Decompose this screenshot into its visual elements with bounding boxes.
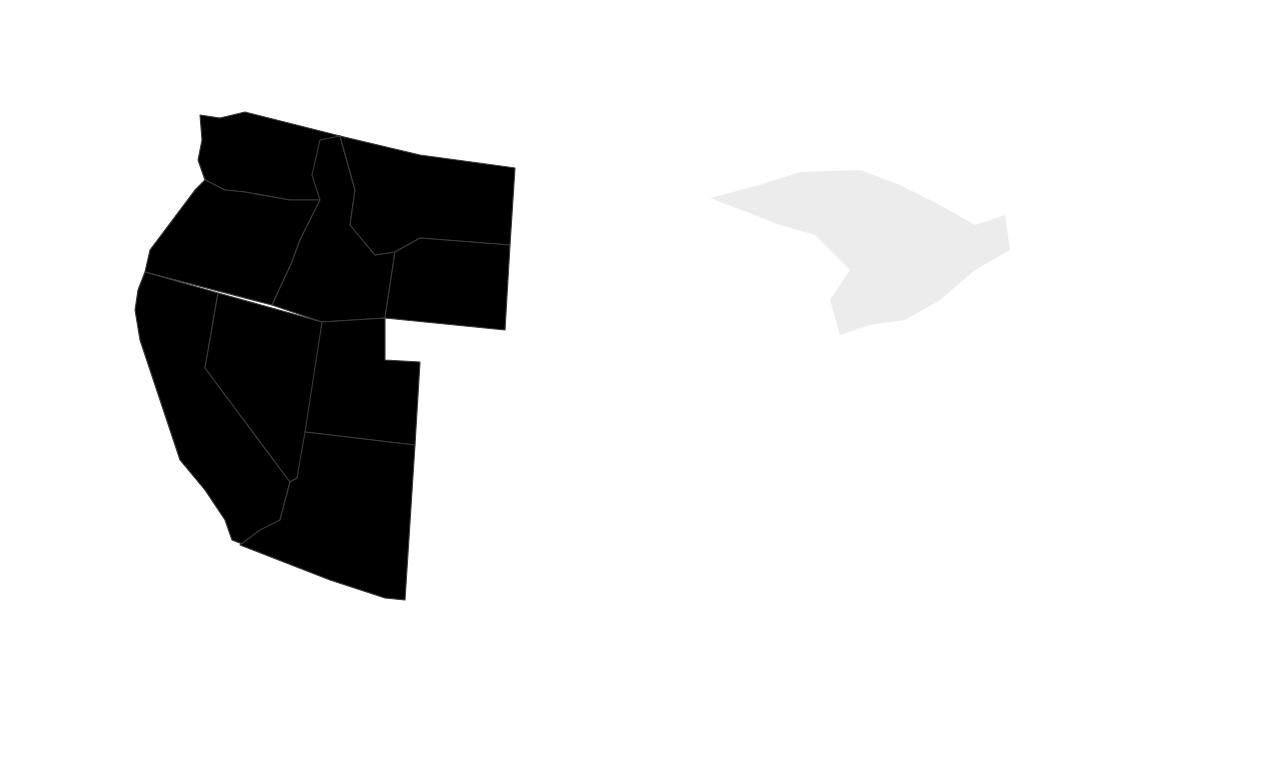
state-wyoming[interactable]	[385, 238, 510, 330]
state-utah[interactable]	[305, 318, 420, 445]
great-lakes-region	[710, 170, 1010, 335]
state-montana[interactable]	[340, 136, 515, 255]
us-teacher-salary-map	[0, 0, 1276, 784]
